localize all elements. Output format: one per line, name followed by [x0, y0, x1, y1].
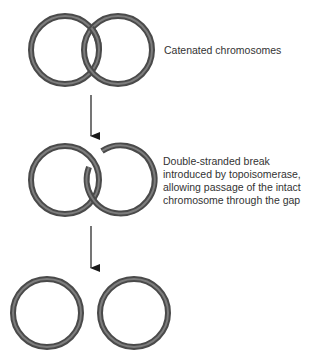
label-line: chromosome through the gap	[163, 194, 301, 207]
label-catenated: Catenated chromosomes	[164, 44, 281, 57]
ring-left-overlap	[92, 28, 100, 50]
separated-chromosomes	[13, 279, 168, 347]
label-line: Double-stranded break	[163, 155, 301, 168]
label-double-strand-break: Double-stranded break introduced by topo…	[163, 155, 301, 207]
label-line: Catenated chromosomes	[164, 44, 281, 57]
ring-right-free	[100, 279, 168, 347]
catenated-chromosomes	[31, 16, 152, 84]
ring-left-free	[13, 279, 81, 347]
double-strand-break-rings	[31, 145, 155, 214]
ring-right	[84, 16, 152, 84]
ring-left	[31, 16, 99, 84]
label-line: allowing passage of the intact	[163, 181, 301, 194]
label-line: introduced by topoisomerase,	[163, 168, 301, 181]
